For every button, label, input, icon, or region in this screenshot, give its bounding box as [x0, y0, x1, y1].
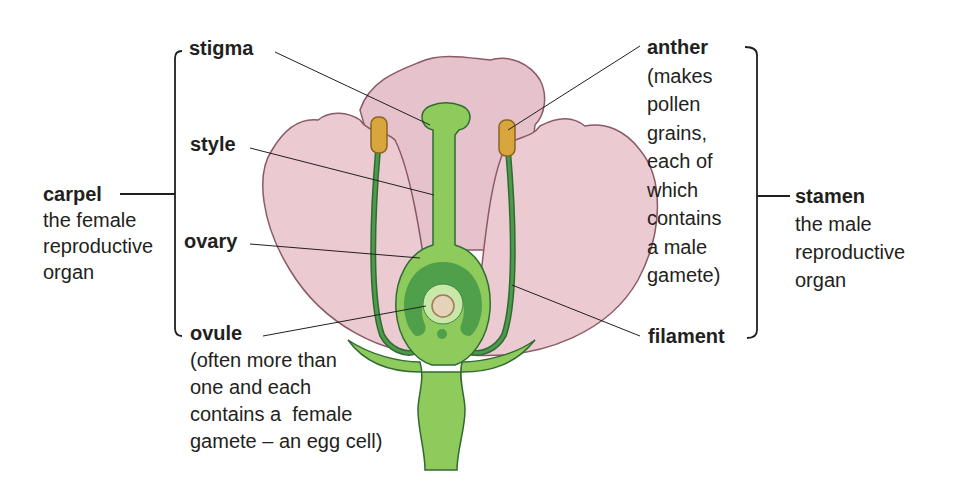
ovule-desc-1: (often more than [190, 347, 382, 374]
carpel-name: carpel [43, 181, 153, 207]
ovary-label: ovary [184, 229, 237, 253]
anther-desc-1: (makes [647, 62, 722, 91]
stamen-desc-3: organ [795, 266, 905, 294]
anther-desc-3: grains, [647, 119, 722, 148]
ovule-name: ovule [190, 320, 382, 347]
ovule [432, 295, 454, 317]
carpel-label: carpel the female reproductive organ [43, 181, 153, 285]
stamen-desc-2: reproductive [795, 238, 905, 266]
style-label: style [190, 132, 236, 156]
ovule-desc-2: one and each [190, 374, 382, 401]
ovule-desc-3: contains a female [190, 401, 382, 428]
stamen-desc-1: the male [795, 210, 905, 238]
carpel-desc-1: the female [43, 207, 153, 233]
anther-desc-8: gamete) [647, 261, 722, 290]
anther-desc-2: pollen [647, 90, 722, 119]
anther-desc-4: each of [647, 147, 722, 176]
filament-label: filament [648, 324, 725, 348]
stigma-name: stigma [189, 36, 253, 60]
anther-desc-5: which [647, 176, 722, 205]
stigma-label: stigma [189, 36, 253, 60]
anther-label: anther (makes pollen grains, each of whi… [647, 33, 722, 290]
carpel-desc-2: reproductive [43, 233, 153, 259]
stamen-label: stamen the male reproductive organ [795, 182, 905, 294]
ovary-name: ovary [184, 229, 237, 253]
carpel-desc-3: organ [43, 259, 153, 285]
stamen-name: stamen [795, 182, 905, 210]
ovule-label: ovule (often more than one and each cont… [190, 320, 382, 455]
anther-name: anther [647, 33, 722, 62]
style-name: style [190, 132, 236, 156]
anther-desc-7: a male [647, 233, 722, 262]
anther-right [499, 120, 515, 156]
anther-desc-6: contains [647, 204, 722, 233]
carpel-bracket [175, 51, 182, 336]
ovule-stalk-dot [437, 329, 447, 339]
filament-name: filament [648, 324, 725, 348]
anther-left [371, 117, 387, 153]
ovule-desc-4: gamete – an egg cell) [190, 428, 382, 455]
stamen-bracket [745, 47, 757, 338]
